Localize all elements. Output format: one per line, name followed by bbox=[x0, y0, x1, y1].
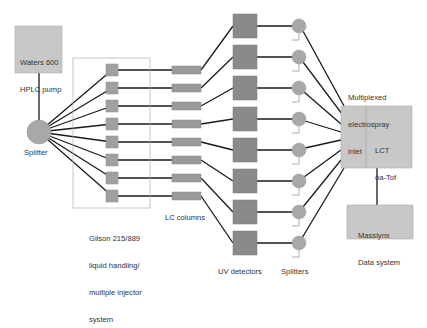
injector-squares bbox=[106, 64, 118, 202]
uv-detector-boxes bbox=[233, 14, 257, 255]
pump-label: Waters 600 HPLC pump bbox=[20, 40, 61, 103]
splitter-to-inlet-lines bbox=[302, 31, 344, 238]
data-system-label: Masslynx Data system bbox=[358, 213, 400, 276]
splitter-circles bbox=[292, 19, 306, 250]
splitters-label: Splitters bbox=[281, 267, 308, 276]
main-splitter-circle bbox=[27, 120, 51, 144]
injector-system-frame bbox=[73, 58, 150, 208]
column-to-detector-lines bbox=[201, 26, 233, 243]
injector-system-label: Gilson 215/889 liquid handling/ multiple… bbox=[89, 216, 142, 328]
ms-label: LCT oa-Tof bbox=[375, 128, 396, 191]
detector-to-splitter-lines bbox=[257, 26, 293, 243]
lc-column-rects bbox=[172, 66, 201, 200]
injector-to-column-lines bbox=[118, 70, 172, 196]
uv-detectors-label: UV detectors bbox=[218, 267, 262, 276]
lc-columns-label: LC columns bbox=[165, 213, 205, 222]
main-splitter-label: Splitter bbox=[24, 148, 48, 157]
